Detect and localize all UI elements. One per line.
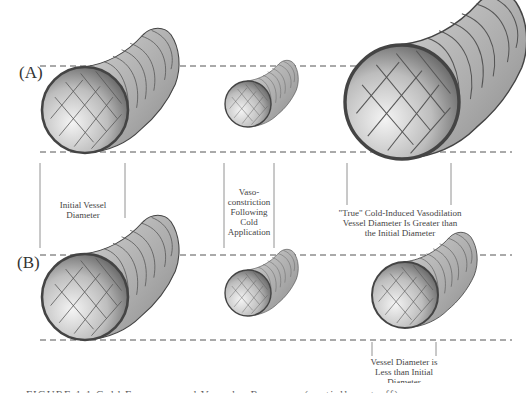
vessel-a-true-vasodilation (345, 0, 526, 159)
vessel-b-vasoconstricted (225, 249, 298, 316)
vessel-a-initial (42, 28, 179, 153)
vasoconstriction-label: Vaso- constriction Following Cold Applic… (224, 187, 274, 237)
panel-label-a: (A) (19, 63, 43, 83)
vessel-b-initial (42, 215, 179, 340)
vessel-a-vasoconstricted (225, 60, 298, 127)
vessel-b-partial-dilation (372, 232, 477, 328)
less-than-initial-label: Vessel Diameter is Less than Initial Dia… (358, 357, 450, 383)
true-vasodilation-label: "True" Cold-Induced Vasodilation Vessel … (330, 208, 470, 238)
panel-label-b: (B) (17, 253, 40, 273)
initial-diameter-label: Initial Vessel Diameter (40, 200, 126, 220)
